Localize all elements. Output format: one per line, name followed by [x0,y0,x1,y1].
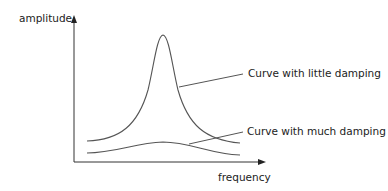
curve-much-damping [87,142,240,155]
label-little-damping: Curve with little damping [248,67,381,79]
x-axis-arrow-icon [258,159,266,165]
y-axis-label: amplitude [19,12,72,24]
resonance-diagram [0,0,388,191]
label-much-damping: Curve with much damping [247,125,386,137]
x-axis-label: frequency [218,171,271,183]
leader-line-little-damping [179,74,243,87]
curve-little-damping [87,35,240,143]
